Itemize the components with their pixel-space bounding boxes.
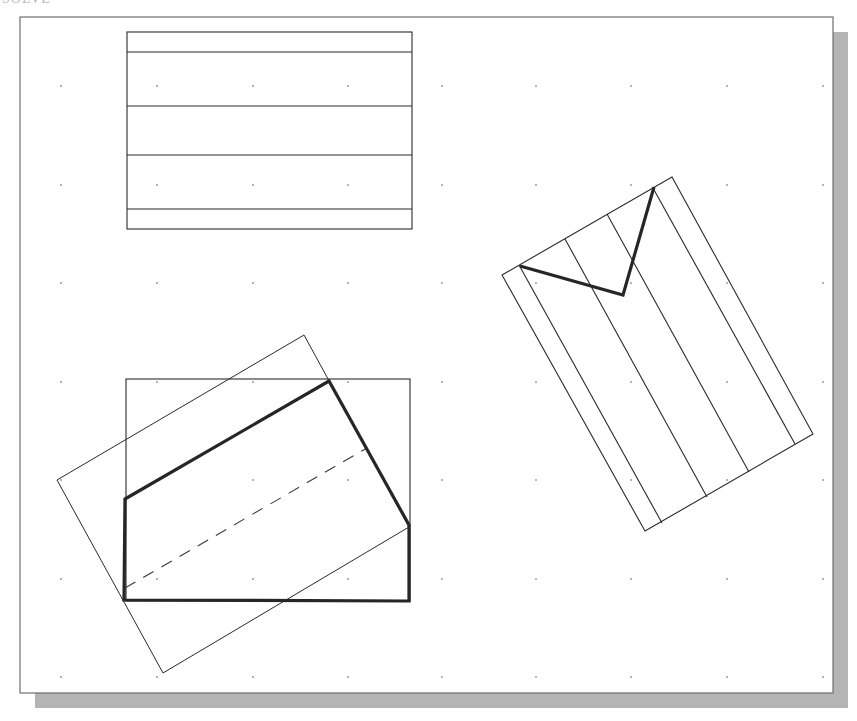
grid-dot [726,381,728,383]
grid-dot [156,381,158,383]
grid-dot [252,479,254,481]
drawing-canvas: SOLVE [0,0,857,721]
grid-dot [60,282,62,284]
grid-dot [441,676,443,678]
grid-dot [535,85,537,87]
grid-dot [441,479,443,481]
grid-dot [726,184,728,186]
drawing-frame [20,17,833,693]
frame-border [20,17,833,693]
grid-dot [535,381,537,383]
grid-dot [726,676,728,678]
grid-dot [535,282,537,284]
grid-dot [156,282,158,284]
grid-dot [726,282,728,284]
grid-dot [441,184,443,186]
grid-dot [60,184,62,186]
grid-dot [630,184,632,186]
grid-dot [630,676,632,678]
drawing-svg [0,0,857,721]
grid-dot [726,479,728,481]
grid-dot [156,578,158,580]
grid-dot [156,676,158,678]
grid-dot [156,85,158,87]
grid-dot [822,676,824,678]
grid-dot [60,381,62,383]
grid-dot [822,282,824,284]
grid-dot [60,578,62,580]
grid-dot [441,381,443,383]
grid-dot [441,85,443,87]
grid-dot [822,184,824,186]
grid-dot [726,85,728,87]
grid-dot [347,85,349,87]
grid-dot [347,282,349,284]
grid-dot [822,85,824,87]
grid-dot [60,85,62,87]
grid-dot [252,184,254,186]
grid-dot [535,479,537,481]
grid-dot [441,282,443,284]
grid-dot [822,381,824,383]
grid-dot [441,578,443,580]
grid-dot [252,85,254,87]
grid-dot [347,676,349,678]
grid-dot [630,85,632,87]
grid-dot [630,381,632,383]
grid-dot [156,184,158,186]
grid-dot [535,578,537,580]
grid-dot [630,578,632,580]
grid-dot [347,184,349,186]
grid-dot [630,282,632,284]
grid-dot [535,184,537,186]
grid-dot [822,479,824,481]
grid-dot [252,381,254,383]
grid-dot [347,578,349,580]
grid-dot [252,282,254,284]
grid-dot [60,676,62,678]
grid-dot [535,676,537,678]
grid-dot [252,578,254,580]
cut-off-heading-text: SOLVE [2,0,51,7]
grid-dot [60,479,62,481]
grid-dot [726,578,728,580]
grid-dot [822,578,824,580]
grid-dot [630,479,632,481]
grid-dot [252,676,254,678]
grid-dot [347,479,349,481]
grid-dot [347,381,349,383]
